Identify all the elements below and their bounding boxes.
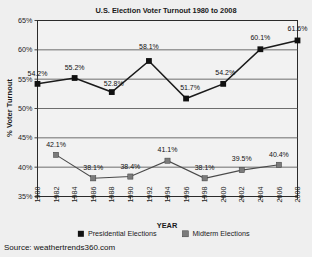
data-point-marker (91, 176, 96, 181)
x-tick-label: 1984 (70, 187, 79, 203)
data-point-marker (72, 75, 78, 81)
data-point-label: 60.1% (250, 34, 270, 41)
y-tick-label: 65% (18, 16, 33, 25)
data-point-marker (295, 38, 301, 44)
y-tick-label: 50% (18, 104, 33, 113)
x-tick-label: 2004 (256, 187, 265, 203)
x-tick-label: 1980 (33, 187, 42, 203)
data-point-marker (239, 168, 244, 173)
y-tick-label: 35% (18, 192, 33, 201)
voter-turnout-chart: U.S. Election Voter Turnout 1980 to 2008… (0, 0, 312, 257)
data-point-marker (35, 81, 41, 87)
source-note: Source: weathertrends360.com (4, 243, 116, 252)
x-tick-labels: 1980198219841986198819901992199419961998… (33, 187, 302, 203)
x-tick-label: 2008 (293, 187, 302, 203)
data-point-label: 54.2% (28, 70, 48, 77)
legend-label-presidential: Presidential Elections (88, 229, 157, 238)
data-point-label: 61.6% (288, 25, 308, 32)
legend-swatch-midterm (182, 231, 188, 237)
x-tick-label: 1990 (126, 187, 135, 203)
x-tick-label: 1992 (145, 187, 154, 203)
data-point-label: 54.2% (215, 69, 235, 76)
x-tick-label: 1998 (200, 187, 209, 203)
data-point-label: 38.4% (120, 163, 140, 170)
y-tick-label: 45% (18, 133, 33, 142)
data-point-marker (220, 81, 226, 87)
y-tick-label: 40% (18, 163, 33, 172)
y-tick-label: 60% (18, 45, 33, 54)
data-point-label: 42.1% (46, 141, 66, 148)
x-tick-label: 1994 (163, 187, 172, 203)
data-point-marker (257, 46, 263, 52)
data-point-marker (53, 152, 58, 157)
data-point-label: 41.1% (158, 146, 178, 153)
data-point-marker (202, 176, 207, 181)
data-point-marker (183, 96, 189, 102)
x-tick-label: 2002 (237, 187, 246, 203)
data-point-label: 55.2% (65, 64, 85, 71)
legend-swatch-presidential (78, 231, 84, 237)
data-point-marker (165, 158, 170, 163)
x-tick-label: 2006 (275, 187, 284, 203)
data-point-marker (276, 162, 281, 167)
data-point-label: 51.7% (180, 84, 200, 91)
data-point-label: 58.1% (139, 43, 159, 50)
data-point-marker (146, 58, 152, 64)
data-point-marker (128, 174, 133, 179)
data-point-label: 52.8% (104, 80, 124, 87)
x-tick-label: 1986 (89, 187, 98, 203)
x-tick-label: 1982 (52, 187, 61, 203)
chart-svg: U.S. Election Voter Turnout 1980 to 2008… (0, 0, 312, 257)
data-point-label: 40.4% (269, 151, 289, 158)
x-tick-label: 1996 (182, 187, 191, 203)
data-point-label: 38.1% (83, 164, 103, 171)
data-point-label: 39.5% (232, 155, 252, 162)
chart-title: U.S. Election Voter Turnout 1980 to 2008 (95, 6, 236, 15)
y-axis-title: % Voter Turnout (5, 79, 14, 137)
legend-label-midterm: Midterm Elections (192, 229, 250, 238)
x-axis-title: YEAR (157, 221, 178, 230)
data-point-marker (109, 89, 115, 95)
x-tick-label: 2000 (219, 187, 228, 203)
data-point-label: 38.1% (195, 164, 215, 171)
x-tick-label: 1988 (107, 187, 116, 203)
